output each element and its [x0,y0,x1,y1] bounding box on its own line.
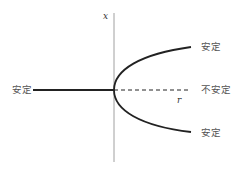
horizontal-axis-label: r [177,96,181,105]
left-branch-label: 安定 [12,85,32,95]
upper-stable-branch [114,47,191,90]
lower-branch-label: 安定 [201,128,221,138]
vertical-axis-label: x [103,12,108,21]
upper-branch-label: 安定 [201,42,221,52]
pitchfork-bifurcation-diagram: x r 安定 安定 不安定 安定 [0,0,242,175]
middle-branch-label: 不安定 [201,85,231,95]
